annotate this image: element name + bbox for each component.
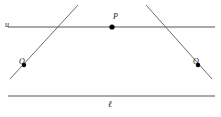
label-point-q-right: Q <box>193 58 199 66</box>
label-point-p: P <box>113 13 118 21</box>
geometry-diagram: u P Q Q ℓ <box>0 0 221 117</box>
transversal-right <box>146 5 212 79</box>
label-line-ell: ℓ <box>108 100 112 109</box>
point-p-dot <box>109 24 114 29</box>
label-line-u: u <box>5 21 9 29</box>
transversal-left <box>10 5 78 79</box>
label-point-q-left: Q <box>19 58 25 66</box>
